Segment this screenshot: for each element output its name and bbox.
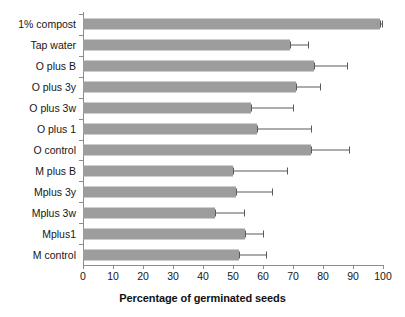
bar-row: O control [83,140,383,161]
x-axis-tick [83,265,84,269]
x-axis-tick-label: 20 [137,271,149,282]
x-axis-tick-label: 30 [167,271,179,282]
error-bar-cap-lower [233,167,234,174]
bar-row: O plus 3y [83,77,383,98]
x-axis-tick [173,265,174,269]
x-axis-tick-label: 40 [197,271,209,282]
y-axis-tick [79,56,83,57]
error-bar-line [251,108,293,109]
bar-row: M plus B [83,160,383,181]
y-axis-tick [79,119,83,120]
error-bar-line [239,254,266,255]
bar [83,61,314,72]
error-bar-cap-upper [263,230,264,237]
error-bar-cap-lower [314,63,315,70]
error-bar-cap-upper [272,188,273,195]
error-bar-line [245,233,263,234]
category-label: O plus B [36,61,76,72]
y-axis-tick [79,223,83,224]
y-axis-tick [79,98,83,99]
error-bar-line [257,129,311,130]
category-label: M control [33,249,76,260]
bar-row: O plus B [83,56,383,77]
error-bar-cap-upper [349,146,350,153]
category-label: Tap water [30,40,76,51]
x-axis-tick-label: 80 [317,271,329,282]
error-bar-cap-lower [290,42,291,49]
error-bar-cap-lower [245,230,246,237]
plot-area: 1% compostTap waterO plus BO plus 3yO pl… [83,14,383,265]
error-bar-cap-upper [347,63,348,70]
error-bar-cap-upper [382,21,383,28]
category-label: 1% compost [18,19,76,30]
bar-row: Mplus 3w [83,202,383,223]
bar [83,82,296,93]
y-axis-tick [79,77,83,78]
bar [83,124,257,135]
error-bar-cap-upper [311,126,312,133]
x-axis-tick [113,265,114,269]
x-axis-tick-label: 10 [107,271,119,282]
category-label: Mplus 3w [32,207,76,218]
x-axis-tick-label: 0 [80,271,86,282]
bar-row: O plus 1 [83,119,383,140]
bar [83,144,311,155]
x-axis-tick [233,265,234,269]
x-axis-tick-label: 70 [287,271,299,282]
bar-row: Mplus1 [83,223,383,244]
error-bar-line [290,45,308,46]
category-label: M plus B [35,166,76,177]
error-bar-cap-lower [239,251,240,258]
x-axis-tick [203,265,204,269]
bar [83,249,239,260]
category-label: O control [33,145,76,156]
error-bar-cap-lower [296,84,297,91]
category-label: Mplus 3y [34,187,76,198]
x-axis-tick [323,265,324,269]
x-axis-tick-label: 100 [374,271,392,282]
bar [83,165,233,176]
x-axis-tick [353,265,354,269]
y-axis-tick [79,14,83,15]
error-bar-cap-upper [266,251,267,258]
category-label: O plus 3y [32,82,76,93]
y-axis-tick [79,140,83,141]
category-label: O plus 3w [29,103,76,114]
germination-bar-chart: 1% compostTap waterO plus BO plus 3yO pl… [0,0,405,317]
x-axis-tick-label: 50 [227,271,239,282]
bar-row: Tap water [83,35,383,56]
bar-row: 1% compost [83,14,383,35]
error-bar-cap-lower [215,209,216,216]
y-axis-tick [79,202,83,203]
y-axis-tick [79,244,83,245]
error-bar-line [236,191,272,192]
error-bar-cap-lower [257,126,258,133]
error-bar-cap-upper [287,167,288,174]
category-label: Mplus1 [42,228,76,239]
bar [83,228,245,239]
y-axis-tick [79,160,83,161]
x-axis-tick [143,265,144,269]
bar [83,207,215,218]
bar [83,40,290,51]
error-bar-cap-lower [251,105,252,112]
error-bar-cap-upper [293,105,294,112]
bar [83,186,236,197]
category-label: O plus 1 [37,124,76,135]
x-axis-tick-label: 60 [257,271,269,282]
error-bar-line [311,149,349,150]
bar [83,103,251,114]
x-axis-tick [293,265,294,269]
x-axis-tick [383,265,384,269]
error-bar-cap-lower [236,188,237,195]
x-axis-tick [263,265,264,269]
y-axis-tick [79,181,83,182]
x-axis-title: Percentage of germinated seeds [0,292,405,304]
error-bar-line [215,212,244,213]
error-bar-line [233,170,287,171]
error-bar-cap-upper [244,209,245,216]
bar [83,19,380,30]
y-axis-tick [79,35,83,36]
error-bar-cap-upper [308,42,309,49]
error-bar-line [296,87,320,88]
